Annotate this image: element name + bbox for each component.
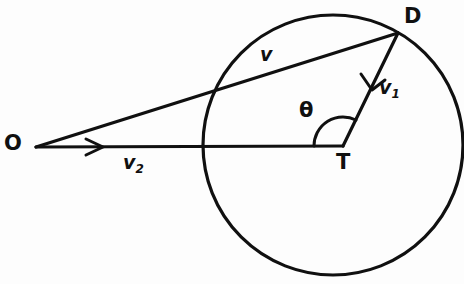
vector-diagram-figure: O D T v v1 v2 θ bbox=[0, 0, 464, 284]
segment-o-to-d bbox=[36, 33, 398, 147]
diagram-canvas bbox=[0, 0, 464, 284]
point-label-d: D bbox=[404, 6, 421, 27]
segment-o-to-t bbox=[36, 146, 343, 147]
point-label-t: T bbox=[336, 152, 350, 173]
vector-label-v2-base: v bbox=[123, 151, 135, 173]
vector-label-v2-subscript: 2 bbox=[135, 162, 143, 176]
vector-label-v1-base: v bbox=[379, 76, 391, 98]
vector-label-v2: v2 bbox=[123, 153, 144, 172]
angle-label-theta: θ bbox=[299, 100, 313, 121]
vector-label-v: v bbox=[260, 45, 272, 64]
vector-label-v1-subscript: 1 bbox=[391, 87, 399, 101]
vector-label-v1: v1 bbox=[379, 78, 400, 97]
point-label-o: O bbox=[4, 133, 22, 154]
